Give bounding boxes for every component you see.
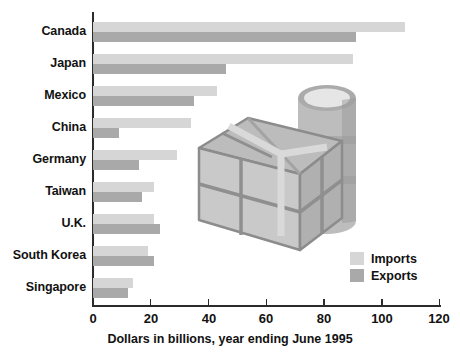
category-label-mexico: Mexico <box>0 88 86 102</box>
category-label-china: China <box>0 120 86 134</box>
bar-south-korea-exports <box>93 256 154 266</box>
category-label-germany: Germany <box>0 152 86 166</box>
bar-taiwan-exports <box>93 192 142 202</box>
legend-swatch-imports <box>350 252 364 265</box>
x-tick-100 <box>381 299 382 306</box>
bar-japan-exports <box>93 64 226 74</box>
x-tick-label-120: 120 <box>409 311 460 326</box>
bar-germany-imports <box>93 150 177 160</box>
legend-label-imports: Imports <box>371 252 417 266</box>
bar-mexico-exports <box>93 96 194 106</box>
bar-germany-exports <box>93 160 139 170</box>
bar-u-k-exports <box>93 224 160 234</box>
legend-item-imports: Imports <box>350 250 418 267</box>
legend-label-exports: Exports <box>371 269 418 283</box>
x-tick-label-0: 0 <box>63 311 123 326</box>
x-tick-label-60: 60 <box>236 311 296 326</box>
x-tick-label-80: 80 <box>294 311 354 326</box>
x-tick-label-100: 100 <box>352 311 412 326</box>
bar-canada-imports <box>93 22 405 32</box>
bar-china-exports <box>93 128 119 138</box>
bar-mexico-imports <box>93 86 217 96</box>
x-tick-120 <box>439 299 440 306</box>
bar-chart: Canada Japan Mexico China Germany Taiwan… <box>0 0 460 358</box>
bar-canada-exports <box>93 32 356 42</box>
legend-swatch-exports <box>350 269 364 282</box>
bar-japan-imports <box>93 54 353 64</box>
x-axis-title: Dollars in billions, year ending June 19… <box>0 332 460 346</box>
x-tick-80 <box>323 299 324 306</box>
bar-taiwan-imports <box>93 182 154 192</box>
x-tick-label-40: 40 <box>179 311 239 326</box>
bar-singapore-exports <box>93 288 128 298</box>
x-tick-20 <box>150 299 151 306</box>
category-label-japan: Japan <box>0 56 86 70</box>
bar-u-k-imports <box>93 214 154 224</box>
x-tick-label-20: 20 <box>121 311 181 326</box>
category-label-uk: U.K. <box>0 216 86 230</box>
category-label-south-korea: South Korea <box>0 248 86 262</box>
x-tick-40 <box>208 299 209 306</box>
category-label-taiwan: Taiwan <box>0 184 86 198</box>
bar-singapore-imports <box>93 278 133 288</box>
bar-south-korea-imports <box>93 246 148 256</box>
category-label-canada: Canada <box>0 24 86 38</box>
category-label-singapore: Singapore <box>0 280 86 294</box>
bar-china-imports <box>93 118 191 128</box>
legend: Imports Exports <box>350 250 418 284</box>
x-tick-60 <box>266 299 267 306</box>
x-tick-0 <box>92 299 93 306</box>
legend-item-exports: Exports <box>350 267 418 284</box>
